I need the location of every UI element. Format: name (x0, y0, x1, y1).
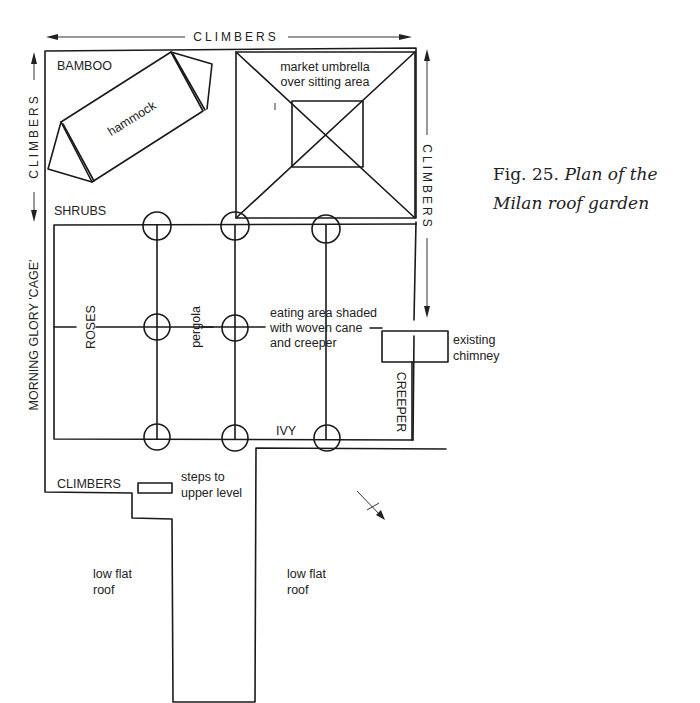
chimney-label-line1: existing (453, 333, 495, 347)
ivy-label: IVY (276, 424, 297, 438)
eating-area-label-line2: with woven cane (269, 321, 362, 335)
low-roof-left-line2: roof (93, 583, 115, 597)
roof-garden-plan: CLIMBERS CLIMBERS CLIMBERS hammock BAMBO… (0, 0, 700, 703)
chimney-label-line2: chimney (453, 349, 500, 363)
figure-caption: Fig. 25. Plan of the Milan roof garden (492, 164, 658, 213)
umbrella-label-line1: market umbrella (280, 60, 370, 74)
low-roof-left-line1: low flat (93, 567, 132, 581)
existing-chimney: existing chimney (382, 331, 500, 363)
low-roof-right-line2: roof (287, 583, 309, 597)
climbers-top-arrow: CLIMBERS (46, 30, 412, 44)
climbers-right-label: CLIMBERS (420, 144, 434, 229)
market-umbrella: market umbrella over sitting area (236, 52, 415, 218)
climbers-bottom-label: CLIMBERS (57, 477, 121, 491)
eating-area-label-line1: eating area shaded (270, 306, 377, 320)
caption-fig-label: Fig. 25. (493, 164, 559, 184)
hammock-label: hammock (105, 98, 159, 139)
steps (138, 483, 172, 493)
caption-title-line2: Milan roof garden (492, 193, 649, 213)
shrubs-label: SHRUBS (54, 204, 106, 218)
low-roof-right-line1: low flat (287, 567, 326, 581)
climbers-top-label: CLIMBERS (193, 30, 278, 44)
pergola-post (314, 425, 340, 451)
svg-text:Fig. 25. Plan of the: Fig. 25. Plan of the (493, 164, 658, 184)
eating-area-label-line3: and creeper (270, 336, 337, 350)
creeper-label: CREEPER (394, 372, 408, 432)
morning-glory-label: MORNING GLORY 'CAGE' (27, 260, 41, 411)
pergola-label: pergola (189, 306, 203, 348)
climbers-right-arrow: CLIMBERS (420, 49, 434, 318)
north-arrow-icon (357, 491, 385, 520)
bamboo-label: BAMBOO (57, 59, 112, 73)
steps-label-line2: upper level (181, 486, 242, 500)
climbers-left-label: CLIMBERS (27, 93, 41, 178)
roses-label: ROSES (84, 305, 98, 349)
caption-title-line1: Plan of the (563, 164, 657, 184)
steps-label-line1: steps to (181, 470, 225, 484)
climbers-left-arrow: CLIMBERS (27, 52, 41, 222)
terrace-boundary (45, 48, 446, 702)
umbrella-label-line2: over sitting area (281, 75, 370, 89)
